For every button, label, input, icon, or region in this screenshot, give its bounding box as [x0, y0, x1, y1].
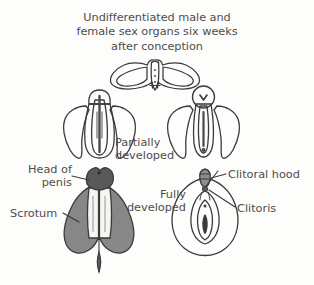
- tubercle-tip: [152, 61, 159, 63]
- glans-penis: [86, 168, 113, 190]
- label-partially-developed-line-2: developed: [115, 149, 174, 162]
- label-head-of-penis-line-2: penis: [10, 176, 72, 189]
- tubercle-left-edge: [151, 62, 152, 88]
- vaginal-opening: [202, 214, 207, 234]
- groove-dot-1: [154, 69, 156, 71]
- urethral-opening: [204, 205, 207, 208]
- urethral-meatus: [97, 171, 100, 174]
- label-scrotum: Scrotum: [10, 207, 57, 221]
- female-vestibule-dot: [201, 148, 205, 152]
- figure-undifferentiated-genital-tubercle: [110, 60, 199, 90]
- left-swelling-crease: [117, 67, 147, 86]
- label-clitoris: Clitoris: [237, 202, 276, 216]
- groove-dot-3: [154, 81, 156, 83]
- label-clitoral-hood: Clitoral hood: [228, 168, 300, 182]
- label-head-of-penis-line-1: Head of: [10, 163, 72, 176]
- clitoral-glans: [202, 186, 207, 191]
- groove-dot-2: [154, 75, 156, 77]
- clitoral-hood-shape: [200, 169, 211, 187]
- label-partially-developed-line-1: Partially: [115, 136, 174, 149]
- anatomical-diagram: Undifferentiated male and female sex org…: [0, 0, 314, 285]
- female-right-fold: [214, 106, 239, 158]
- glans-v-mark: [200, 95, 207, 100]
- female-glans: [193, 86, 215, 108]
- label-fully-developed-line-2: developed: [118, 201, 186, 214]
- right-swelling-crease: [163, 67, 193, 86]
- figure-partially-developed-female: [168, 86, 240, 158]
- label-fully-developed: Fully developed: [118, 188, 186, 215]
- label-fully-developed-line-1: Fully: [118, 188, 186, 201]
- label-head-of-penis: Head of penis: [10, 163, 72, 190]
- tubercle-right-edge: [158, 62, 159, 88]
- label-partially-developed: Partially developed: [115, 136, 174, 163]
